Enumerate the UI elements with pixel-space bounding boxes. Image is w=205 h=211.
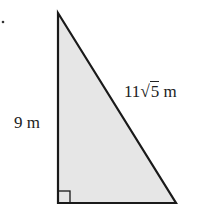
hypotenuse-radicand: 5	[150, 81, 160, 101]
hypotenuse-label: 11√5 m	[124, 82, 177, 102]
right-triangle	[58, 13, 176, 203]
hypotenuse-unit: m	[159, 82, 176, 101]
leg-label: 9 m	[14, 113, 40, 133]
triangle-diagram	[0, 0, 205, 211]
hypotenuse-coefficient: 11	[124, 82, 140, 101]
sqrt-icon: √	[140, 82, 149, 101]
marker-dot	[2, 21, 5, 24]
